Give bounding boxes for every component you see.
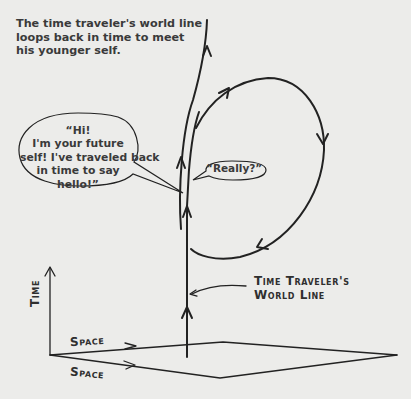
bubble-line: “Hi! (20, 124, 136, 137)
space-axis-label-1: Space (70, 333, 105, 349)
bubble-future-self-text: “Hi! I'm your future self! I've traveled… (20, 124, 136, 191)
bubble-line: in time to say (20, 164, 136, 177)
world-line-label: Time Traveler's World Line (254, 274, 350, 302)
world-line-mid (187, 112, 199, 240)
bubble-line: I'm your future (20, 137, 136, 150)
world-line-label-line: Time Traveler's (254, 274, 350, 288)
spacetime-diagram (0, 0, 411, 399)
space-axis-label-2: Space (69, 365, 104, 382)
world-line-pointer (192, 285, 246, 294)
world-line-left-branch (180, 20, 207, 229)
bubble-line: “Really?” (206, 162, 262, 175)
time-axis-label: Time (28, 280, 42, 307)
bubble-line: hello!” (20, 178, 136, 191)
time-axis (45, 267, 55, 355)
bubble-line: self! I've traveled back (20, 151, 136, 164)
bubble-younger-self-text: “Really?” (206, 162, 262, 175)
world-line-label-line: World Line (254, 288, 350, 302)
